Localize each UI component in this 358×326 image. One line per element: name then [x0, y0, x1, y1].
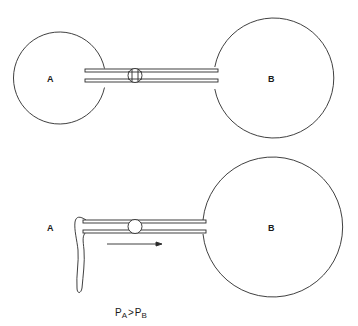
bubble-a-collapsed — [75, 217, 86, 292]
stopcock-closed — [128, 69, 142, 83]
alveoli-pressure-diagram: A B A B PA>PB — [0, 0, 358, 326]
subscript-b: B — [142, 311, 147, 320]
tube-bottom — [83, 220, 206, 233]
top-panel — [13, 18, 333, 138]
bubble-a-label-top: A — [47, 74, 54, 84]
subscript-a: A — [122, 311, 128, 320]
bubble-a-top — [13, 32, 104, 124]
bubble-a-label-bottom: A — [47, 223, 54, 233]
bubble-b-label-bottom: B — [268, 223, 275, 233]
stopcock-open — [128, 220, 142, 234]
svg-text:PA>PB: PA>PB — [115, 307, 147, 320]
bottom-panel — [75, 157, 343, 297]
greater-than: > — [128, 307, 134, 318]
tube-top — [85, 69, 218, 82]
bubble-b-label-top: B — [268, 74, 275, 84]
pressure-equation: PA>PB — [115, 307, 147, 320]
flow-arrow — [107, 242, 162, 246]
